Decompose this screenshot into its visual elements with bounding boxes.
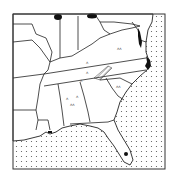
south-florida-dot (124, 152, 128, 156)
svg-text:ᴧᴧ: ᴧᴧ (70, 102, 75, 107)
louisiana-coast-mark (48, 131, 52, 133)
top-left-blob (54, 14, 62, 20)
svg-text:ᴧᴧ: ᴧᴧ (117, 46, 122, 51)
svg-text:ᴧᴧ: ᴧᴧ (116, 84, 121, 89)
southeast-us-map: ᴧᴧ ᴧ ᴧ ᴧ ᴧ ᴧᴧ ᴧ ᴧᴧ (0, 0, 175, 179)
